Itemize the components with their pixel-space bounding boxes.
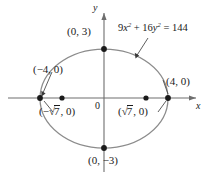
- label-top-vertex: (0, 3): [67, 26, 91, 37]
- x-axis-label: x: [196, 101, 200, 111]
- label-left-focus-close: , 0): [60, 105, 75, 117]
- label-left-vertex: (−4, 0): [33, 64, 63, 75]
- point-right-vertex: [165, 95, 171, 101]
- equation-leader-line: [137, 38, 149, 56]
- equation-plus: +: [131, 22, 142, 33]
- label-left-focus: (−√7, 0): [39, 105, 75, 117]
- label-right-focus-close: , 0): [133, 105, 148, 117]
- y-axis-arrowhead: [101, 13, 106, 20]
- equation-coef-y: 16: [142, 22, 153, 33]
- x-axis-arrowhead: [189, 95, 196, 100]
- equation-label: 9x2 + 16y2 = 144: [118, 23, 188, 34]
- origin-label: 0: [95, 101, 100, 111]
- label-left-focus-open: (−: [39, 105, 49, 117]
- label-right-vertex: (4, 0): [166, 76, 190, 87]
- label-bottom-vertex: (0, −3): [88, 155, 118, 166]
- point-right-focus: [143, 95, 148, 100]
- y-axis-label: y: [93, 3, 97, 13]
- point-left-focus: [59, 95, 64, 100]
- point-bottom-vertex: [101, 145, 107, 151]
- ellipse-figure: y x 0 9x2 + 16y2 = 144 (0, 3) (−4, 0) (4…: [0, 0, 209, 180]
- equation-rhs: 144: [172, 22, 188, 33]
- point-top-vertex: [101, 46, 107, 52]
- label-right-focus: (√7, 0): [118, 105, 148, 117]
- point-left-vertex: [37, 95, 43, 101]
- equation-leader-arrowhead: [135, 53, 139, 59]
- equation-equals: =: [161, 22, 172, 33]
- right-focus-leader-line: [158, 101, 166, 112]
